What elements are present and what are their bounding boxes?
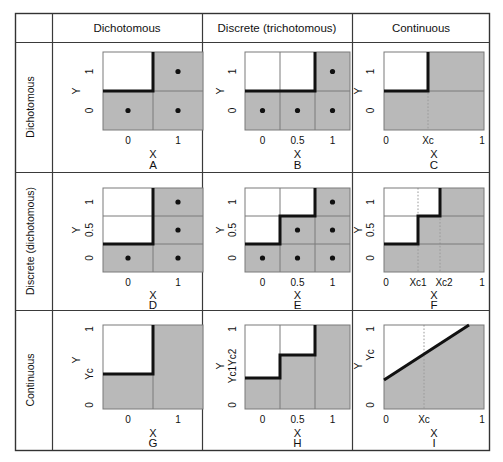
panel-D-cell-x0-y1	[103, 188, 153, 216]
panel-E-xtick-05: 0.5	[291, 277, 305, 288]
panel-D-cell-x0-y05	[103, 216, 153, 244]
panel-H-plot	[245, 325, 350, 409]
panel-E-dot-x1-y1	[330, 199, 335, 204]
panel-B-dot-x1-y1	[330, 69, 335, 74]
panel-H-xtick-0: 0	[260, 414, 266, 425]
panel-E-plot	[245, 188, 350, 272]
column-header-dichotomous: Dichotomous	[93, 22, 160, 34]
panel-D-xtick-0: 0	[125, 277, 131, 288]
panel-E-label: E	[294, 299, 302, 311]
panel-E-xtick-1: 1	[330, 277, 336, 288]
panel-G-region-unshaded	[103, 325, 153, 374]
panel-E-cell-x05-y1	[280, 188, 315, 216]
panel-D-ytick-1: 1	[84, 199, 95, 205]
panel-H-yaxis-label: Y	[214, 362, 226, 369]
panel-A-dot-x0-y0	[125, 108, 130, 113]
panel-H-ytick-1: 1	[227, 326, 238, 332]
panel-B-plot	[245, 52, 350, 130]
panel-C-plot	[384, 52, 484, 130]
panel-G-xtick-0: 0	[125, 414, 131, 425]
panel-H-xtick-05: 0.5	[291, 414, 305, 425]
panel-I-ytick-1: 1	[365, 326, 376, 332]
column-header-continuous: Continuous	[392, 22, 450, 34]
panel-D-plot	[103, 188, 203, 272]
panel-E-ytick-1: 1	[227, 199, 238, 205]
panel-B-yaxis-label: Y	[214, 87, 226, 94]
panel-I-xtick-0: 0	[383, 414, 389, 425]
panel-B-label: B	[294, 159, 302, 171]
panel-D-xtick-1: 1	[175, 277, 181, 288]
panel-B-ytick-0: 0	[227, 107, 238, 113]
panel-F-xtick-1: 1	[479, 277, 485, 288]
panel-A-xtick-0: 0	[125, 135, 131, 146]
panel-D-dot-x1-y0	[175, 255, 180, 260]
panel-B-xtick-1: 1	[330, 135, 336, 146]
panel-C-xtick-0: 0	[383, 135, 389, 146]
panel-I-ytick-0: 0	[365, 402, 376, 408]
panel-G-xtick-1: 1	[175, 414, 181, 425]
row-headers: Dichotomous Discrete (dichotomous) Conti…	[24, 76, 36, 406]
panel-G-ytick-1: 1	[84, 326, 95, 332]
panel-I-yaxis-label: Y	[352, 362, 364, 369]
panel-A-ytick-0: 0	[84, 107, 95, 113]
panel-D-label: D	[149, 299, 157, 311]
panel-E-dot-x1-y05	[330, 227, 335, 232]
panel-B-ytick-1: 1	[227, 68, 238, 74]
panel-E-dot-x1-y0	[330, 255, 335, 260]
panel-A-label: A	[149, 159, 157, 171]
row-header-continuous: Continuous	[24, 353, 36, 406]
panel-F-label: F	[430, 299, 437, 311]
panel-A-cell-x0-y1	[103, 52, 153, 91]
panel-B-dot-x05-y0	[295, 108, 300, 113]
panel-C-region-unshaded	[384, 52, 428, 91]
panel-F-ytick-05: 0.5	[365, 223, 376, 237]
panel-H-ytick-0: 0	[227, 402, 238, 408]
panel-B-dot-x1-y0	[330, 108, 335, 113]
panel-G-ytick-yc: Yc	[84, 368, 95, 380]
panel-I-plot	[384, 325, 484, 409]
panel-F-xtick-0: 0	[383, 277, 389, 288]
panel-C-ytick-1: 1	[365, 68, 376, 74]
panel-I-xtick-1: 1	[479, 414, 485, 425]
panel-A-dot-x1-y0	[175, 108, 180, 113]
panel-B-cell-x0-y1	[245, 52, 280, 91]
panel-F-xtick-xc2: Xc2	[435, 277, 453, 288]
panel-H-ytick-yc: Yc1Yc2	[227, 348, 238, 383]
panel-F-ytick-0: 0	[365, 255, 376, 261]
panel-C-ytick-0: 0	[365, 107, 376, 113]
figure-svg: Dichotomous Discrete (trichotomous) Cont…	[0, 0, 503, 462]
panel-I-xtick-xc: Xc	[418, 414, 430, 425]
panel-C-xtick-1: 1	[479, 135, 485, 146]
panel-E-ytick-0: 0	[227, 255, 238, 261]
panel-B-dot-x0-y0	[260, 108, 265, 113]
panel-B-xtick-0: 0	[260, 135, 266, 146]
panel-D-yaxis-label: Y	[70, 226, 82, 233]
panel-D-ytick-05: 0.5	[84, 223, 95, 237]
column-headers: Dichotomous Discrete (trichotomous) Cont…	[93, 22, 450, 34]
panel-C-xtick-xc: Xc	[422, 135, 434, 146]
panel-G-ytick-0: 0	[84, 402, 95, 408]
panel-F-xtick-xc1: Xc1	[409, 277, 427, 288]
panel-A-dot-x1-y1	[175, 69, 180, 74]
panel-E-ytick-05: 0.5	[227, 223, 238, 237]
panel-E-yaxis-label: Y	[214, 226, 226, 233]
panel-D-dot-x1-y1	[175, 199, 180, 204]
panel-C-yaxis-label: Y	[352, 87, 364, 94]
panel-A-plot	[103, 52, 203, 130]
column-header-discrete-trichotomous: Discrete (trichotomous)	[218, 22, 337, 34]
figure-root: Dichotomous Discrete (trichotomous) Cont…	[0, 0, 503, 462]
panel-D-dot-x0-y0	[125, 255, 130, 260]
panel-A-xtick-1: 1	[175, 135, 181, 146]
panel-E-cell-x0-y1	[245, 188, 280, 216]
panel-D-ytick-0: 0	[84, 255, 95, 261]
panel-D-dot-x1-y05	[175, 227, 180, 232]
panel-A-yaxis-label: Y	[70, 87, 82, 94]
panel-H-label: H	[293, 437, 301, 449]
panel-C-label: C	[430, 159, 438, 171]
row-header-dichotomous: Dichotomous	[24, 76, 36, 137]
panel-G-yaxis-label: Y	[70, 356, 82, 363]
panel-F-ytick-1: 1	[365, 199, 376, 205]
panel-E-xtick-0: 0	[260, 277, 266, 288]
panel-A-ytick-1: 1	[84, 68, 95, 74]
panel-E-dot-x05-y05	[295, 227, 300, 232]
